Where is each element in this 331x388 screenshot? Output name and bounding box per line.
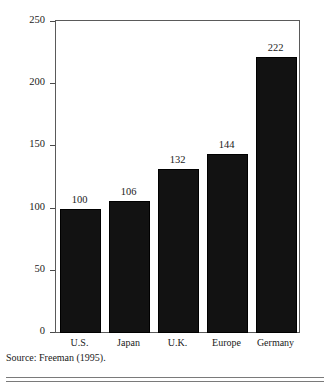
y-tick-label: 0 xyxy=(40,325,45,336)
bar-value-label: 100 xyxy=(59,194,100,205)
bar-europe xyxy=(207,154,248,333)
bottom-rule-lower xyxy=(6,381,324,382)
y-tick-200: 200 xyxy=(0,83,55,84)
bar-value-label: 144 xyxy=(206,139,247,150)
y-tick-label: 100 xyxy=(29,201,45,212)
y-tick-label: 200 xyxy=(29,76,45,87)
y-tick-50: 50 xyxy=(0,270,55,271)
bar-value-label: 106 xyxy=(108,186,149,197)
y-tick-0: 0 xyxy=(0,332,55,333)
y-tick-150: 150 xyxy=(0,145,55,146)
y-tick-100: 100 xyxy=(0,208,55,209)
bar-value-label: 222 xyxy=(255,42,296,53)
y-tick-label: 50 xyxy=(35,263,46,274)
figure: Percent of U.S. wage 050100150200250 U.S… xyxy=(0,0,331,388)
plot-area xyxy=(55,20,300,333)
y-tick-250: 250 xyxy=(0,21,55,22)
bar-us xyxy=(60,209,101,333)
bar-germany xyxy=(256,57,297,333)
x-axis-label: Germany xyxy=(247,337,304,348)
y-tick-label: 250 xyxy=(29,14,45,25)
y-tick-label: 150 xyxy=(29,138,45,149)
bar-uk xyxy=(158,169,199,333)
source-note: Source: Freeman (1995). xyxy=(6,352,106,363)
bar-value-label: 132 xyxy=(157,154,198,165)
bottom-rule-upper xyxy=(6,377,324,378)
bar-japan xyxy=(109,201,150,333)
